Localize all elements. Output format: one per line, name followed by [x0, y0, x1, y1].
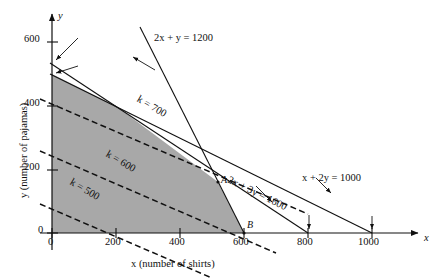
- x-axis-title: x (number of shirts): [131, 258, 215, 269]
- x-tick-label-200: 200: [105, 236, 121, 247]
- y-tick-label-0: 0: [38, 224, 43, 235]
- y-tick-label-600: 600: [24, 33, 40, 44]
- y-axis-symbol: y: [58, 10, 63, 21]
- label-vertex-a: A: [221, 174, 227, 185]
- label-vertex-b: B: [247, 219, 253, 230]
- label-constraint-2x-y-1200: 2x + y = 1200: [154, 32, 213, 43]
- y-axis-title: y (number of pajamas): [18, 103, 29, 198]
- x-axis-symbol: x: [424, 232, 429, 243]
- x-tick-label-1000: 1000: [358, 236, 379, 247]
- x-tick-label-600: 600: [233, 236, 249, 247]
- label-constraint-x-2y-1000: x + 2y = 1000: [302, 172, 361, 183]
- linear-programming-chart: 2x + y = 1200 x + 2y = 1000 2x + 3y = 16…: [0, 0, 441, 278]
- x-tick-label-800: 800: [297, 236, 313, 247]
- x-tick-label-400: 400: [169, 236, 185, 247]
- x-tick-label-0: 0: [48, 236, 53, 247]
